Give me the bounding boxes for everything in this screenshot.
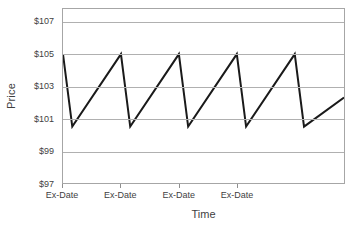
price-polyline (63, 54, 344, 126)
gridline (63, 119, 344, 120)
price-vs-time-chart: Price $97$99$101$103$105$107 Time Ex-Dat… (0, 0, 358, 231)
y-axis-tick-label: $97 (39, 180, 54, 189)
x-axis-tick-label: Ex-Date (104, 190, 137, 200)
x-axis-tick-mark (120, 184, 121, 188)
y-axis-tick-label: $107 (34, 17, 54, 26)
plot-area (62, 8, 345, 184)
gridline (63, 152, 344, 153)
x-axis-title: Time (62, 208, 345, 220)
gridline (63, 54, 344, 55)
x-axis-tick-label: Ex-Date (162, 190, 195, 200)
x-axis-tick-mark (179, 184, 180, 188)
x-axis-tick-mark (62, 184, 63, 188)
gridline (63, 87, 344, 88)
x-axis-tick-label: Ex-Date (221, 190, 254, 200)
y-axis-tick-label: $99 (39, 147, 54, 156)
x-axis-tick-label: Ex-Date (46, 190, 79, 200)
y-axis-tick-label: $103 (34, 82, 54, 91)
y-axis-tick-label: $105 (34, 49, 54, 58)
y-axis-tick-label: $101 (34, 114, 54, 123)
gridline (63, 22, 344, 23)
x-axis-tick-mark (237, 184, 238, 188)
price-line-series (63, 9, 344, 183)
